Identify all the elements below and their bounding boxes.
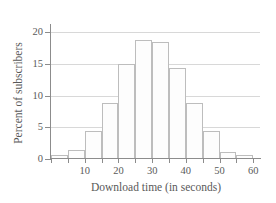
histogram-bar <box>186 103 203 159</box>
x-axis-tick-label: 10 <box>70 165 100 177</box>
x-axis-tick <box>236 159 237 163</box>
histogram-bar <box>169 68 186 159</box>
x-axis-tick-label-wrap: 50 <box>205 165 235 177</box>
x-axis-tick-label-wrap: 60 <box>238 165 268 177</box>
histogram-bar <box>85 131 102 160</box>
x-axis-tick <box>203 159 204 163</box>
histogram-bar <box>135 40 152 159</box>
histogram-bar <box>102 103 119 159</box>
y-axis-tick-label-wrap: 20 <box>0 27 43 37</box>
x-axis-tick-label: 50 <box>205 165 235 177</box>
x-axis-tick <box>68 159 69 163</box>
y-axis-tick-label-wrap: 10 <box>0 91 43 101</box>
x-axis-title: Download time (in seconds) <box>40 180 272 194</box>
x-axis-tick-label-wrap: 20 <box>103 165 133 177</box>
y-axis-tick-label-wrap: 0 <box>0 154 43 164</box>
x-axis-tick-label-wrap: 10 <box>70 165 100 177</box>
x-axis-tick <box>169 159 170 163</box>
x-axis-tick-label: 40 <box>171 165 201 177</box>
y-axis-tick-label: 15 <box>3 59 43 69</box>
x-axis-tick-label: 20 <box>103 165 133 177</box>
y-axis-tick-label: 0 <box>3 154 43 164</box>
y-axis-tick-label-wrap: 5 <box>0 122 43 132</box>
plot-area <box>51 26 260 159</box>
x-axis-tick <box>102 159 103 163</box>
histogram-bar <box>118 64 135 159</box>
x-axis-tick <box>186 159 187 163</box>
histogram-figure: Percent of subscribers 05101520 10203040… <box>0 0 276 203</box>
x-axis-tick <box>253 159 254 163</box>
y-axis-tick-label: 20 <box>3 27 43 37</box>
x-axis-tick <box>135 159 136 163</box>
histogram-bar <box>203 131 220 160</box>
x-axis-tick-label: 30 <box>137 165 167 177</box>
x-axis-tick-label-wrap: 30 <box>137 165 167 177</box>
x-axis-tick <box>220 159 221 163</box>
y-axis-tick-label: 5 <box>3 122 43 132</box>
x-axis-tick-label-wrap: 40 <box>171 165 201 177</box>
gridline <box>51 32 260 33</box>
x-axis-tick <box>152 159 153 163</box>
y-axis-tick-label: 10 <box>3 91 43 101</box>
histogram-bar <box>152 42 169 159</box>
x-axis-tick-label: 60 <box>238 165 268 177</box>
x-axis-tick <box>85 159 86 163</box>
x-axis-line <box>50 158 261 159</box>
x-axis-tick <box>118 159 119 163</box>
y-axis-tick-label-wrap: 15 <box>0 59 43 69</box>
x-axis-tick <box>51 159 52 163</box>
